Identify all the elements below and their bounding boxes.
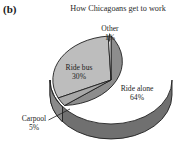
slice-label-other-value: 1% [88,33,132,42]
slice-label-ride-alone-value: 64% [108,93,166,102]
slice-label-carpool-name: Carpool [22,114,46,123]
slice-label-ride-alone: Ride alone 64% [108,84,166,102]
slice-label-ride-bus-name: Ride bus [66,63,93,72]
figure-panel: (b) How Chicagoans get to work Other 1% … [0,0,184,166]
slice-label-ride-bus: Ride bus 30% [52,63,106,81]
slice-label-carpool: Carpool 5% [8,114,60,132]
slice-label-carpool-value: 5% [8,123,60,132]
slice-label-ride-alone-name: Ride alone [121,84,154,93]
slice-label-ride-bus-value: 30% [52,72,106,81]
slice-label-other-name: Other [101,24,118,33]
slice-label-other: Other 1% [88,24,132,42]
